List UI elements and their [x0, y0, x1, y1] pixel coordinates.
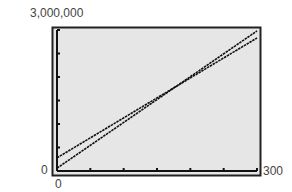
- line-chart: [0, 0, 292, 192]
